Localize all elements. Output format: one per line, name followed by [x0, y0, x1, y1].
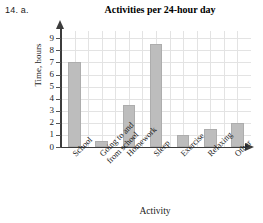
y-axis-tick-label: 3 [40, 105, 54, 115]
gridline-vertical [142, 31, 143, 147]
gridline-vertical [197, 31, 198, 147]
gridline-vertical [88, 31, 89, 147]
y-axis-tick [56, 38, 61, 39]
gridline-vertical [224, 31, 225, 147]
y-axis-tick [56, 135, 61, 136]
gridline-vertical [183, 31, 184, 147]
problem-number-label: 14. a. [5, 5, 29, 15]
y-axis-tick [56, 50, 61, 51]
gridline-vertical [115, 31, 116, 147]
y-axis-tick [56, 111, 61, 112]
y-axis-tick [56, 75, 61, 76]
y-axis-tick [56, 87, 61, 88]
y-axis-tick [56, 123, 61, 124]
x-axis-title: Activity [80, 206, 230, 216]
y-axis-tick [56, 147, 61, 148]
y-axis-title: Time, hours [33, 25, 43, 105]
y-axis-tick-label: 0 [40, 142, 54, 152]
chart-title: Activities per 24-hour day [60, 4, 260, 15]
y-axis-tick-label: 2 [40, 117, 54, 127]
y-axis-tick [56, 62, 61, 63]
gridline-vertical [102, 31, 103, 147]
y-axis-tick [56, 99, 61, 100]
y-axis-tick-label: 1 [40, 129, 54, 139]
bar [68, 62, 80, 147]
chart-figure: 14. a. Activities per 24-hour day 012345… [0, 0, 263, 223]
gridline-vertical [170, 31, 171, 147]
y-axis-arrowhead-icon [56, 20, 64, 29]
